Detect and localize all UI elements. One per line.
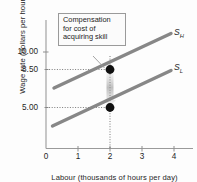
x-tick-label-2: 2 <box>103 152 117 161</box>
x-tick-label-0: 0 <box>39 152 53 161</box>
y-axis-title-text: Wage rate (dollars per hour) <box>18 0 27 94</box>
x-axis-title-text: Labour (thousands of hours per day) <box>51 173 177 182</box>
compensation-callout: Compensation for cost of acquiring skill <box>58 13 126 46</box>
chart-figure: 10.00 8.50 5.00 0 1 2 3 4 Wage rate (dol… <box>0 0 197 182</box>
x-tick-label-1: 1 <box>71 152 85 161</box>
data-point-low-skill <box>106 103 115 112</box>
x-tick-label-3: 3 <box>135 152 149 161</box>
data-point-high-skill <box>106 65 115 74</box>
curve-label-high-skill-sub: H <box>180 33 184 39</box>
y-axis-title: Wage rate (dollars per hour) <box>11 0 25 115</box>
curve-label-low-skill-sub: L <box>180 68 183 74</box>
curve-label-high-skill: SH <box>174 27 184 39</box>
curve-label-low-skill: SL <box>174 62 183 74</box>
callout-line-3: acquiring skill <box>63 33 122 42</box>
x-axis-title: Labour (thousands of hours per day) <box>32 166 197 182</box>
x-tick-label-4: 4 <box>167 152 181 161</box>
